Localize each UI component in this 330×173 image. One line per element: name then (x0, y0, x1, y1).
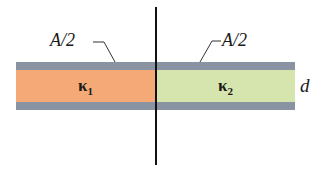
kappa2-label: κ2 (218, 76, 233, 97)
divider-and-leaders (0, 0, 330, 173)
kappa2-subscript: 2 (227, 85, 233, 97)
kappa1-label: κ1 (78, 76, 93, 97)
leader-left (93, 42, 115, 62)
kappa1-subscript: 1 (87, 85, 93, 97)
area-label-left: A/2 (50, 30, 75, 51)
leader-right (200, 41, 221, 62)
area-label-right: A/2 (222, 30, 247, 51)
separation-label: d (300, 75, 310, 97)
